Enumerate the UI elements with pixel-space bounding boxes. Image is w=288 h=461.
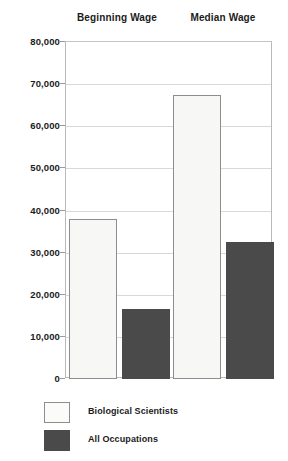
bar-chart: Beginning Wage Median Wage 010,00020,000…: [0, 0, 288, 461]
bar: [226, 242, 274, 379]
gridline: [66, 211, 271, 212]
gridline: [66, 168, 271, 169]
y-axis-tick-label: 80,000: [30, 36, 60, 47]
legend-label: All Occupations: [88, 434, 158, 444]
group-header-median-wage: Median Wage: [172, 12, 274, 23]
y-axis-tick-label: 20,000: [30, 288, 60, 299]
y-axis-tick-label: 30,000: [30, 246, 60, 257]
y-axis-tick-mark: [60, 378, 65, 379]
y-axis-tick-label: 70,000: [30, 78, 60, 89]
chart-legend: Biological ScientistsAll Occupations: [44, 400, 274, 456]
y-axis-tick-label: 10,000: [30, 330, 60, 341]
legend-item: Biological Scientists: [44, 400, 274, 428]
plot-area: [65, 41, 272, 378]
legend-swatch: [44, 430, 70, 451]
bar: [69, 219, 117, 379]
bar: [173, 95, 221, 379]
group-header-beginning-wage: Beginning Wage: [63, 12, 171, 23]
gridline: [66, 84, 271, 85]
y-axis-tick-label: 40,000: [30, 204, 60, 215]
legend-swatch: [44, 402, 70, 423]
legend-item: All Occupations: [44, 428, 274, 456]
bar: [122, 309, 170, 379]
gridline: [66, 126, 271, 127]
y-axis-tick-label: 50,000: [30, 162, 60, 173]
y-axis-tick-label: 60,000: [30, 120, 60, 131]
legend-label: Biological Scientists: [88, 406, 178, 416]
